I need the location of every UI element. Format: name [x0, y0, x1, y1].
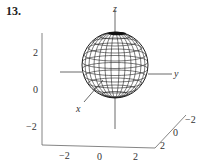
z-axis-label: z	[112, 3, 117, 14]
right-tick-label: 2	[160, 140, 165, 151]
sphere-wireframe	[82, 32, 148, 98]
right-tick-label: 0	[173, 127, 178, 138]
right-tick-label: −2	[185, 114, 196, 125]
left-tick-label: 2	[33, 47, 38, 58]
sphere-plot: z y x 2 0 −2 −2 0 2 2 0 −2	[0, 0, 201, 164]
bottom-tick-label: 0	[97, 151, 102, 162]
x-axis-label: x	[75, 103, 81, 114]
left-tick-label: 0	[33, 84, 38, 95]
left-tick-label: −2	[26, 121, 37, 132]
y-axis-label: y	[173, 68, 179, 79]
bottom-tick-label: 2	[133, 151, 138, 162]
bottom-tick-label: −2	[59, 150, 70, 161]
